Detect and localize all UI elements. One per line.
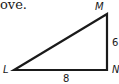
- side-label-ln: 8: [63, 74, 69, 84]
- side-label-mn: 6: [112, 38, 118, 48]
- vertex-label-n: N: [112, 65, 119, 75]
- triangle-lmn: [0, 0, 119, 84]
- vertex-label-m: M: [95, 2, 104, 12]
- vertex-label-l: L: [3, 65, 9, 75]
- diagram: ove. M N L 6 8: [0, 0, 119, 84]
